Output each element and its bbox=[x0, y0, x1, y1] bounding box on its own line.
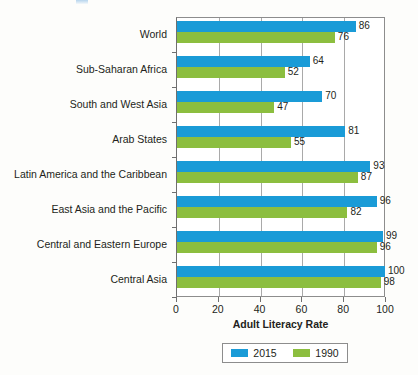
x-axis-title: Adult Literacy Rate bbox=[176, 318, 385, 330]
y-axis-category-label: South and West Asia bbox=[0, 99, 167, 110]
bar-2015[interactable] bbox=[177, 161, 370, 172]
bar-2015[interactable] bbox=[177, 126, 345, 137]
bar-value-label: 70 bbox=[325, 91, 336, 101]
y-axis-tick bbox=[172, 297, 176, 298]
bar-value-label: 55 bbox=[294, 137, 305, 147]
x-axis-tick bbox=[343, 297, 344, 302]
bar-value-label: 93 bbox=[373, 161, 384, 171]
bar-value-label: 98 bbox=[384, 277, 395, 287]
bar-1990[interactable] bbox=[177, 102, 274, 113]
legend-swatch-2015 bbox=[231, 349, 248, 357]
x-axis-tick bbox=[260, 297, 261, 302]
x-axis-tick bbox=[301, 297, 302, 302]
x-axis-tick-label: 60 bbox=[281, 304, 321, 315]
x-axis-tick-label: 20 bbox=[198, 304, 238, 315]
bar-value-label: 86 bbox=[359, 21, 370, 31]
bar-value-label: 81 bbox=[348, 126, 359, 136]
legend-label-2015: 2015 bbox=[253, 348, 276, 359]
bar-2015[interactable] bbox=[177, 91, 322, 102]
bar-value-label: 99 bbox=[386, 231, 397, 241]
legend-label-1990: 1990 bbox=[315, 348, 338, 359]
legend-entry-1990[interactable]: 1990 bbox=[293, 348, 338, 359]
legend-entry-2015[interactable]: 2015 bbox=[231, 348, 276, 359]
bar-value-label: 82 bbox=[350, 207, 361, 217]
x-axis-tick bbox=[385, 297, 386, 302]
y-axis-category-label: Sub-Saharan Africa bbox=[0, 64, 167, 75]
bar-value-label: 64 bbox=[313, 56, 324, 66]
chart-legend: 2015 1990 bbox=[222, 343, 348, 363]
bar-1990[interactable] bbox=[177, 137, 291, 148]
y-axis-category-label: Central and Eastern Europe bbox=[0, 239, 167, 250]
bar-2015[interactable] bbox=[177, 196, 377, 207]
x-axis-tick-label: 40 bbox=[240, 304, 280, 315]
x-axis-tick-label: 80 bbox=[323, 304, 363, 315]
y-axis-category-label: Arab States bbox=[0, 134, 167, 145]
legend-swatch-1990 bbox=[293, 349, 310, 357]
bar-1990[interactable] bbox=[177, 242, 377, 253]
bar-1990[interactable] bbox=[177, 207, 347, 218]
bar-1990[interactable] bbox=[177, 67, 285, 78]
x-axis-tick-label: 0 bbox=[156, 304, 196, 315]
bar-value-label: 96 bbox=[380, 242, 391, 252]
bar-value-label: 76 bbox=[338, 32, 349, 42]
bar-value-label: 100 bbox=[388, 266, 405, 276]
bar-1990[interactable] bbox=[177, 277, 381, 288]
bar-2015[interactable] bbox=[177, 21, 356, 32]
adult-literacy-rate-bar-chart: 020406080100World8676Sub-Saharan Africa6… bbox=[0, 0, 418, 375]
x-axis-tick-label: 100 bbox=[365, 304, 405, 315]
y-axis-category-label: East Asia and the Pacific bbox=[0, 204, 167, 215]
bar-2015[interactable] bbox=[177, 231, 383, 242]
x-axis-tick bbox=[218, 297, 219, 302]
bar-1990[interactable] bbox=[177, 32, 335, 43]
bar-value-label: 52 bbox=[288, 67, 299, 77]
bar-value-label: 47 bbox=[277, 102, 288, 112]
bar-1990[interactable] bbox=[177, 172, 358, 183]
y-axis-category-label: Latin America and the Caribbean bbox=[0, 169, 167, 180]
x-axis-tick bbox=[176, 297, 177, 302]
bar-value-label: 87 bbox=[361, 172, 372, 182]
bar-value-label: 96 bbox=[380, 196, 391, 206]
y-axis-category-label: World bbox=[0, 29, 167, 40]
bar-2015[interactable] bbox=[177, 266, 385, 277]
y-axis-category-label: Central Asia bbox=[0, 274, 167, 285]
